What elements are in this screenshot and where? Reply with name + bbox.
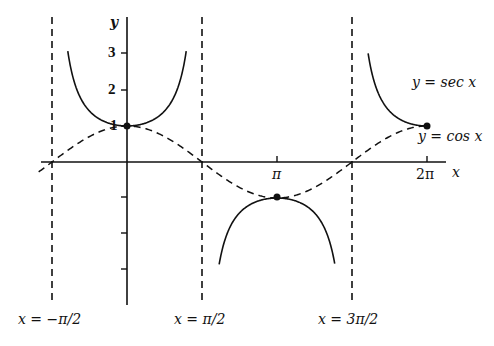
point-0-1 bbox=[124, 123, 131, 130]
asymptote-label-mid: x = π/2 bbox=[174, 311, 225, 327]
y-axis-label: y bbox=[110, 14, 118, 30]
point-pi-neg1 bbox=[274, 194, 281, 201]
y-tick-2: 2 bbox=[108, 81, 116, 98]
asymptote-label-left: x = −π/2 bbox=[18, 311, 81, 327]
sec-label: y = sec x bbox=[412, 74, 476, 90]
x-tick-2pi: 2π bbox=[416, 166, 434, 182]
x-tick-pi: π bbox=[272, 166, 281, 182]
x-axis-label: x bbox=[452, 164, 460, 180]
asymptote-label-right: x = 3π/2 bbox=[318, 311, 378, 327]
y-tick-1: 1 bbox=[110, 117, 118, 134]
y-tick-3: 3 bbox=[108, 44, 116, 61]
cos-label: y = cos x bbox=[418, 128, 482, 144]
y-ticks bbox=[121, 53, 127, 269]
asymptotes bbox=[52, 17, 352, 305]
